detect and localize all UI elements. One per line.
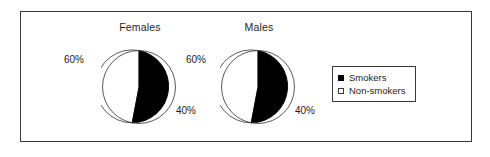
- legend-item-smokers: Smokers: [338, 71, 410, 84]
- figure-canvas: Females 60% 40% Males 60% 40% Smokers No…: [0, 0, 490, 157]
- pie-slice-males-non-smokers: [220, 50, 258, 123]
- pie-chart-males: [220, 49, 296, 125]
- chart-title-females: Females: [103, 21, 177, 33]
- pie-label-females-smokers: 40%: [176, 105, 196, 116]
- pie-label-females-non-smokers: 60%: [64, 54, 84, 65]
- filled-square-icon: [338, 75, 344, 81]
- hollow-square-icon: [338, 88, 344, 94]
- legend-label-non-smokers: Non-smokers: [349, 85, 406, 96]
- legend-item-non-smokers: Non-smokers: [338, 84, 410, 97]
- pie-chart-females: [101, 49, 177, 125]
- legend-label-smokers: Smokers: [349, 72, 386, 83]
- pie-slice-females-non-smokers: [101, 50, 139, 123]
- chart-title-males: Males: [222, 21, 296, 33]
- pie-label-males-smokers: 40%: [295, 105, 315, 116]
- chart-legend: Smokers Non-smokers: [332, 66, 416, 102]
- pie-label-males-non-smokers: 60%: [186, 54, 206, 65]
